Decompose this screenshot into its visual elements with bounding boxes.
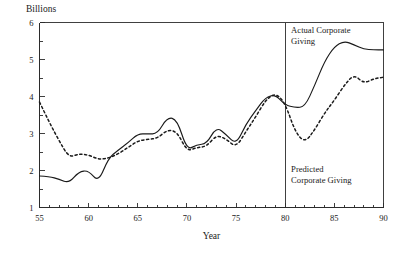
y-axis-title: Billions bbox=[26, 4, 56, 14]
x-tick-label: 60 bbox=[84, 213, 93, 223]
y-axis-ticks bbox=[40, 23, 45, 208]
actual-label-line1: Actual Corporate bbox=[291, 25, 351, 35]
x-tick-label: 75 bbox=[232, 213, 241, 223]
corporate-giving-line-chart: 5560657075808590 123456 BillionsYear Act… bbox=[0, 0, 404, 254]
actual-corporate-giving-line bbox=[40, 42, 384, 182]
y-tick-label: 1 bbox=[29, 203, 33, 213]
actual-label-line2: Giving bbox=[291, 36, 316, 46]
series-predicted-corporate-giving bbox=[40, 77, 384, 159]
x-axis-title: Year bbox=[203, 231, 221, 241]
x-tick-label: 90 bbox=[379, 213, 388, 223]
y-tick-label: 6 bbox=[29, 18, 33, 28]
predicted-corporate-giving-line bbox=[40, 77, 384, 159]
x-tick-label: 55 bbox=[35, 213, 44, 223]
y-tick-label: 3 bbox=[29, 129, 33, 139]
chart-annotations: Actual CorporateGivingPredictedCorporate… bbox=[291, 25, 352, 185]
x-axis-tick-labels: 5560657075808590 bbox=[35, 213, 388, 223]
x-tick-label: 80 bbox=[281, 213, 290, 223]
predicted-label-line2: Corporate Giving bbox=[291, 175, 352, 185]
y-axis-tick-labels: 123456 bbox=[29, 18, 34, 213]
x-tick-label: 65 bbox=[134, 213, 143, 223]
predicted-label-line1: Predicted bbox=[291, 164, 324, 174]
y-tick-label: 4 bbox=[29, 92, 34, 102]
x-axis-ticks bbox=[40, 203, 384, 208]
y-tick-label: 2 bbox=[29, 166, 33, 176]
chart-container: 5560657075808590 123456 BillionsYear Act… bbox=[0, 0, 404, 254]
series-actual-corporate-giving bbox=[40, 42, 384, 182]
x-tick-label: 85 bbox=[330, 213, 339, 223]
axis-titles: BillionsYear bbox=[26, 4, 221, 241]
y-tick-label: 5 bbox=[29, 55, 33, 65]
x-tick-label: 70 bbox=[183, 213, 192, 223]
